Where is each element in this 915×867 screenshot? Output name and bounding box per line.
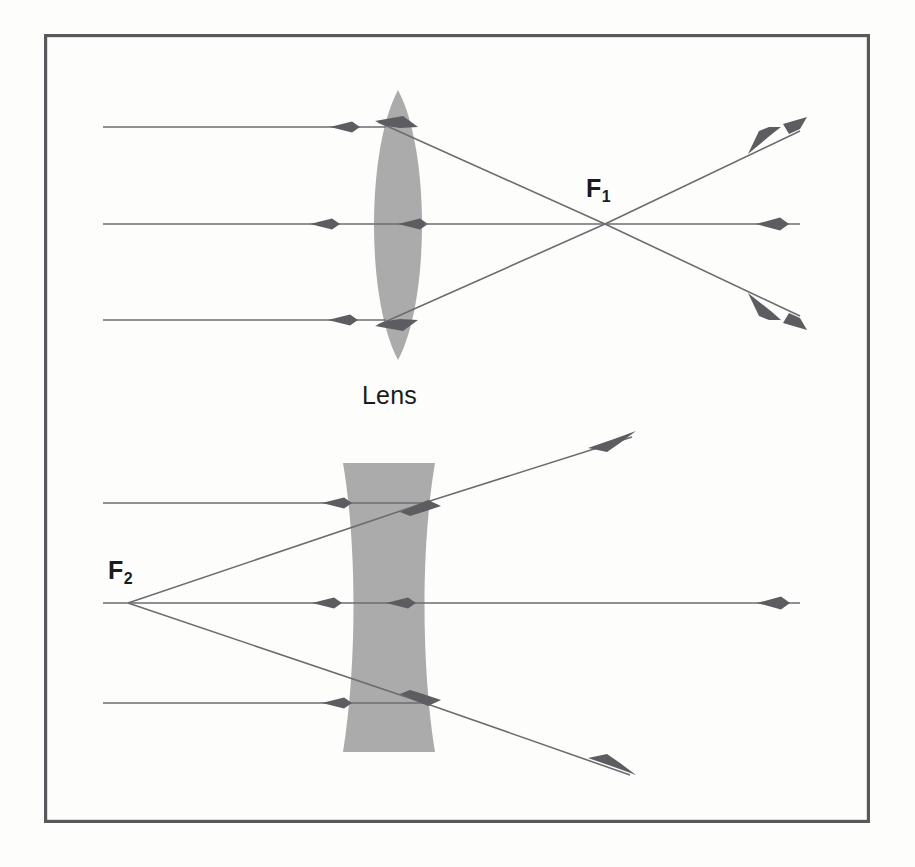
lens-label: Lens: [362, 383, 417, 408]
focal-point-1-subscript: 1: [602, 188, 611, 205]
focal-point-1-label: F1: [586, 176, 610, 201]
focal-point-2-label: F2: [108, 558, 132, 583]
focal-point-1-letter: F: [586, 174, 601, 202]
focal-point-2-subscript: 2: [124, 570, 133, 587]
diagram-canvas: [0, 0, 915, 867]
focal-point-2-letter: F: [108, 556, 123, 584]
lens-ray-diagram-figure: Lens F1 F2: [0, 0, 915, 867]
